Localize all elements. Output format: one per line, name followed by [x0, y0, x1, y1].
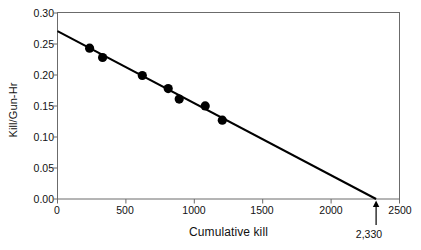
data-point — [98, 53, 107, 62]
data-point — [201, 101, 210, 110]
x-intercept-arrow-icon — [373, 201, 379, 226]
data-point — [175, 95, 184, 104]
x-axis-ticks — [58, 199, 400, 204]
plot-frame — [58, 13, 400, 200]
data-point-group — [85, 44, 227, 125]
data-point — [138, 71, 147, 80]
y-axis-ticks — [53, 13, 58, 199]
chart-figure: Kill/Gun-Hr 0.30 0.25 0.20 0.15 0.10 0.0… — [0, 0, 421, 250]
data-point — [164, 84, 173, 93]
plot-canvas — [0, 0, 421, 250]
data-point — [218, 116, 227, 125]
data-point — [85, 44, 94, 53]
